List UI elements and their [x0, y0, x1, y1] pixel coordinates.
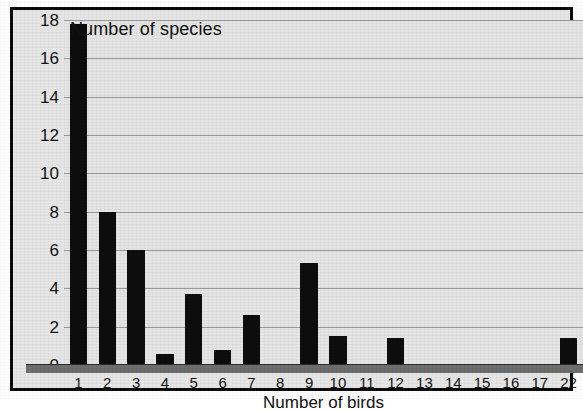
x-tick-label: 3 [132, 374, 140, 391]
y-tick-label: 10 [40, 165, 59, 182]
plot-area [64, 20, 583, 365]
bar [127, 250, 144, 365]
gridline [64, 212, 583, 213]
x-tick-label: 17 [531, 374, 548, 391]
bar [243, 315, 260, 365]
axis-baseline [26, 365, 583, 373]
bar [214, 350, 231, 365]
x-tick-label: 7 [247, 374, 255, 391]
x-tick-label: 13 [416, 374, 433, 391]
y-tick-label: 2 [50, 318, 59, 335]
x-tick-label: 1 [74, 374, 82, 391]
x-tick-label: 12 [387, 374, 404, 391]
y-tick-label: 12 [40, 127, 59, 144]
x-tick-label: 16 [503, 374, 520, 391]
chart-frame: 024681012141618 Number of species 123456… [10, 7, 573, 391]
x-tick-label: 15 [474, 374, 491, 391]
chart-title: Number of species [70, 19, 222, 40]
gridline [64, 135, 583, 136]
bar [387, 338, 404, 365]
x-tick-label: 8 [276, 374, 284, 391]
x-tick-label: 11 [359, 374, 375, 391]
y-axis: 024681012141618 [26, 20, 64, 365]
x-tick-label: 5 [190, 374, 198, 391]
x-tick-label: 6 [218, 374, 226, 391]
y-tick-label: 8 [50, 203, 59, 220]
x-axis-title: Number of birds [64, 393, 583, 412]
x-tick-label: 22 [560, 374, 577, 391]
gridline [64, 97, 583, 98]
bar [300, 263, 317, 365]
gridline [64, 58, 583, 59]
y-tick-label: 6 [50, 242, 59, 259]
x-tick-label: 9 [305, 374, 313, 391]
bar [70, 24, 87, 365]
x-tick-label: 14 [445, 374, 462, 391]
y-tick-label: 18 [40, 12, 59, 29]
gridline [64, 173, 583, 174]
bar [329, 336, 346, 365]
x-tick-label: 10 [330, 374, 347, 391]
bar [560, 338, 577, 365]
bar [185, 294, 202, 365]
bar [99, 212, 116, 365]
plot-wrapper: 024681012141618 Number of species 123456… [26, 20, 583, 398]
y-tick-label: 16 [40, 50, 59, 67]
y-tick-label: 4 [50, 280, 59, 297]
y-tick-label: 14 [40, 88, 59, 105]
x-tick-label: 4 [161, 374, 169, 391]
x-tick-label: 2 [103, 374, 111, 391]
